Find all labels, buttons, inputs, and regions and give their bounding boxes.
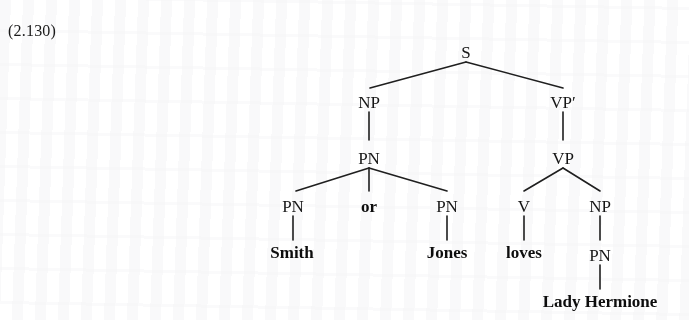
leaf-loves: loves <box>506 243 542 262</box>
node-conjunction-or: or <box>361 197 378 216</box>
edge-pn-pnleft <box>296 168 369 191</box>
node-v: V <box>518 197 531 216</box>
node-vp-bar: VP′ <box>550 93 575 112</box>
node-vp: VP <box>552 149 574 168</box>
edge-vp-v <box>524 168 563 191</box>
edge-s-np <box>370 62 466 88</box>
node-pn-left: PN <box>282 197 304 216</box>
edge-s-vpbar <box>466 62 563 88</box>
edge-pn-pnright <box>369 168 447 191</box>
leaf-jones: Jones <box>427 243 468 262</box>
leaf-smith: Smith <box>270 243 314 262</box>
node-pn-right: PN <box>436 197 458 216</box>
node-pn-coordinate: PN <box>358 149 380 168</box>
node-s: S <box>461 43 470 62</box>
node-np-subject: NP <box>358 93 380 112</box>
syntax-tree: S NP VP′ PN VP PN or PN V NP PN Smith Jo… <box>0 0 689 320</box>
syntax-tree-svg: S NP VP′ PN VP PN or PN V NP PN Smith Jo… <box>0 0 689 320</box>
leaf-lady-hermione: Lady Hermione <box>543 292 658 311</box>
node-pn-object: PN <box>589 246 611 265</box>
edge-vp-np <box>563 168 600 191</box>
node-np-object: NP <box>589 197 611 216</box>
